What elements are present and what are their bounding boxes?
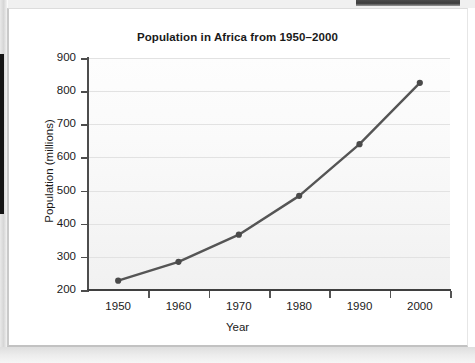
chart-figure: Population in Africa from 1950–2000 2003…: [7, 8, 468, 347]
y-axis-tick: [81, 124, 88, 126]
y-axis-tick: [81, 224, 88, 226]
gridline: [88, 157, 450, 158]
x-axis-tick: [148, 291, 150, 298]
y-axis-tick-label: 200: [42, 283, 76, 295]
x-axis-tick: [450, 291, 452, 298]
x-axis-tick: [329, 291, 331, 298]
y-axis-tick: [81, 257, 88, 259]
y-axis-tick-label: 300: [42, 250, 76, 262]
scan-top-dark-artifact: [356, 0, 460, 6]
gridline: [88, 91, 450, 92]
y-axis-tick: [81, 157, 88, 159]
y-axis-tick-label: 800: [42, 84, 76, 96]
x-axis-tick-label: 1990: [332, 300, 388, 312]
x-axis-tick: [209, 291, 211, 298]
scan-bottom-edge-shadow: [0, 347, 475, 363]
x-axis-tick-label: 1950: [90, 300, 146, 312]
x-axis-tick-label: 1970: [211, 300, 267, 312]
y-axis-tick: [81, 91, 88, 93]
gridline: [88, 191, 450, 192]
plot-area: [88, 58, 450, 290]
gridline: [88, 58, 450, 59]
x-axis-tick: [269, 291, 271, 298]
y-axis-tick: [81, 58, 88, 60]
y-axis-tick: [81, 191, 88, 193]
x-axis-tick-label: 1980: [271, 300, 327, 312]
x-axis-tick-label: 1960: [151, 300, 207, 312]
x-axis-tick: [390, 291, 392, 298]
chart-title: Population in Africa from 1950–2000: [7, 31, 468, 43]
gridline: [88, 224, 450, 225]
gridline: [88, 124, 450, 125]
gridline: [88, 257, 450, 258]
scan-left-dark-artifact: [0, 54, 4, 214]
y-axis-tick: [81, 290, 88, 292]
x-axis-tick-label: 2000: [392, 300, 448, 312]
y-axis-tick-label: 900: [42, 51, 76, 63]
x-axis-label: Year: [7, 321, 468, 333]
y-axis-label: Population (millions): [43, 96, 55, 246]
